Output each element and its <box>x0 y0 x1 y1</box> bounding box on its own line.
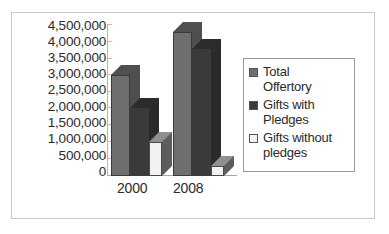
legend-item-gifts-with-pledges[interactable]: Gifts with Pledges <box>249 98 350 127</box>
legend-item-gifts-without-pledges[interactable]: Gifts without pledges <box>249 131 350 160</box>
legend-swatch-icon <box>249 134 258 143</box>
y-tick-label: 0 <box>14 165 106 179</box>
chart-legend: Total Offertory Gifts with Pledges Gifts… <box>243 58 355 172</box>
y-tick-label: 3,000,000 <box>14 67 106 81</box>
x-axis-labels: 2000 2008 <box>107 181 242 201</box>
bar-front-face <box>111 75 130 176</box>
bar-2000-total-offertory[interactable] <box>111 75 130 176</box>
legend-swatch-icon <box>249 68 258 77</box>
bar-front-face <box>192 49 211 176</box>
bar-2008-gifts-without-pledges[interactable] <box>211 166 224 176</box>
legend-label-line1: Gifts with <box>263 97 314 112</box>
chart-screenshot: 4,500,000 4,000,000 3,500,000 3,000,000 … <box>0 0 389 234</box>
legend-label-line2: pledges <box>263 145 307 160</box>
bar-front-face <box>211 166 224 176</box>
legend-label-line1: Gifts without <box>263 130 332 145</box>
bar-2000-gifts-without-pledges[interactable] <box>149 142 162 176</box>
bar-front-face <box>149 142 162 176</box>
y-tick-label: 4,500,000 <box>14 19 106 33</box>
y-tick-label: 2,500,000 <box>14 83 106 97</box>
legend-label: Total Offertory <box>263 65 312 94</box>
y-tick-label: 1,000,000 <box>14 132 106 146</box>
legend-label: Gifts without pledges <box>263 131 332 160</box>
legend-label-line2: Offertory <box>263 79 312 94</box>
bar-2008-gifts-with-pledges[interactable] <box>192 49 211 176</box>
bar-front-face <box>173 32 192 176</box>
y-tick-label: 500,000 <box>14 149 106 163</box>
legend-swatch-icon <box>249 101 258 110</box>
bar-side-face <box>211 39 221 176</box>
x-tick-label-2008: 2008 <box>173 181 203 195</box>
y-tick-label: 2,000,000 <box>14 100 106 114</box>
y-axis-labels: 4,500,000 4,000,000 3,500,000 3,000,000 … <box>14 19 106 174</box>
legend-label: Gifts with Pledges <box>263 98 314 127</box>
y-tick-label: 1,500,000 <box>14 116 106 130</box>
legend-label-line1: Total <box>263 64 289 79</box>
bar-2000-gifts-with-pledges[interactable] <box>130 108 149 176</box>
y-tick-label: 3,500,000 <box>14 51 106 65</box>
bar-front-face <box>130 108 149 176</box>
legend-label-line2: Pledges <box>263 112 309 127</box>
plot-area <box>107 24 239 176</box>
bar-2008-total-offertory[interactable] <box>173 32 192 176</box>
y-tick-label: 4,000,000 <box>14 35 106 49</box>
x-tick-label-2000: 2000 <box>117 181 147 195</box>
legend-item-total-offertory[interactable]: Total Offertory <box>249 65 350 94</box>
